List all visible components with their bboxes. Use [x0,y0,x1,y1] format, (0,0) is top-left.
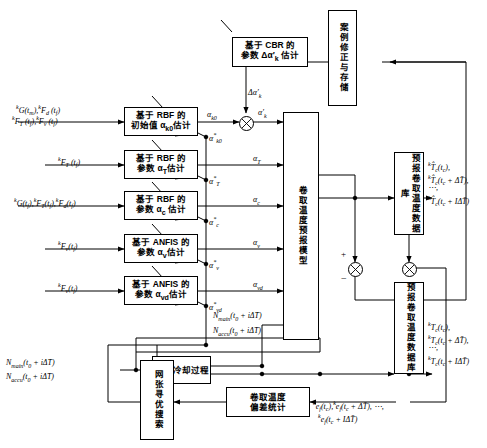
sum2-plus-sign: + [341,249,346,259]
box-rbf-alpha-c-label: 基于 RBF 的参数 αc 估计 [136,194,186,218]
sum2-minus-sign: − [341,274,347,284]
input-label-6: kFv(tf) [58,280,77,296]
box-case-correction-storage-label: 案例修正与存储 [337,23,348,93]
box-search-label: 网张寻优搜索 [152,370,163,430]
box-cbr-estimation[interactable]: 基于 CBR 的参数 Δα′k 估计 [232,37,308,67]
input-label-4: kG(tf),kFT(tf),kFd(tf) [14,195,76,211]
signal-star-alpha-k0: α*k0 [209,130,222,146]
box-rbf-alpha-t-label: 基于 RBF 的参数 αT估计 [136,153,185,177]
box-deviation-statistics[interactable]: 卷取温度偏差统计 [226,387,310,417]
box-cbr-label: 基于 CBR 的参数 Δα′k 估计 [241,40,299,64]
box-anfis-alpha-vd[interactable]: 基于 ANFIS 的参数 αvd估计 [124,276,198,305]
summing-junction-1 [239,116,254,131]
signal-alpha-T: αT [253,154,261,167]
input-label-2: kFT (tf),kFv (tf) [12,113,58,129]
input-label-nmain: Nmain(t0 + iΔT̄) [6,358,55,371]
signal-delta-alpha-k: Δα′k [248,88,261,101]
signal-naccu-bus: Naccu(t0 + iΔT̄) [213,326,261,339]
box-predicted-db-label: 预报卷取温度数据库 [398,153,420,234]
box-rbf-initial[interactable]: 基于 RBF 的初始值 αk0估计 [124,107,198,136]
input-label-3: kFT (tf) [58,154,80,170]
box-rbf-alpha-t[interactable]: 基于 RBF 的参数 αT估计 [124,150,198,179]
box-grid-optimization-search[interactable]: 网张寻优搜索 [140,360,174,440]
box-rbf-alpha-c[interactable]: 基于 RBF 的参数 αc 估计 [124,191,198,220]
actual-output-line3: ⋯, [428,343,438,353]
input-label-naccu: Naccu(t0 + iΔT̄) [6,372,54,385]
box-anfis-alpha-vd-label: 基于 ANFIS 的参数 αvd估计 [132,279,189,303]
summing-junction-2 [348,262,363,277]
diagram-canvas: 基于 CBR 的参数 Δα′k 估计 案例修正与存储 基于 RBF 的初始值 α… [0,0,487,448]
signal-alpha-vd: αvd [253,280,263,293]
box-case-correction-storage[interactable]: 案例修正与存储 [328,10,357,106]
box-deviation-statistics-label: 卷取温度偏差统计 [250,392,286,412]
box-coiling-temp-prediction-model[interactable]: 卷取温度预报模型 [283,112,319,340]
signal-star-alpha-T: α*T [209,173,220,189]
actual-output-line4: kTc(tc + IΔT̄) [428,353,469,369]
box-actual-temp-database[interactable]: 预报卷取温度数据库 [394,282,424,374]
box-rbf-initial-label: 基于 RBF 的初始值 αk0估计 [131,110,191,134]
input-label-5: kFv(tf) [58,238,77,254]
signal-nmain-bus: Nmain(t0 + iΔT̄) [213,311,262,324]
summing-junction-3 [402,262,417,277]
signal-star-alpha-c: α*c [209,214,219,230]
box-anfis-alpha-v-label: 基于 ANFIS 的参数 αv估计 [132,237,189,261]
signal-alpha-k0: αk0 [207,110,217,123]
predicted-output-line3: ⋯, [428,183,438,193]
error-output-line2: kef(tc + IΔT̄) [318,411,357,427]
signal-alpha-v: αv [253,238,260,251]
predicted-output-line4: kT̂c(tc + IΔT̄) [428,193,469,209]
signal-alpha-k-prime: α′k [258,108,267,121]
box-model-label: 卷取温度预报模型 [296,186,307,266]
box-predicted-temp-database[interactable]: 预报卷取温度数据库 [394,152,424,235]
signal-star-alpha-v: α*v [209,257,219,273]
box-actual-db-label: 预报卷取温度数据库 [404,283,415,373]
box-anfis-alpha-v[interactable]: 基于 ANFIS 的参数 αv估计 [124,234,198,263]
signal-alpha-c: αc [253,195,260,208]
